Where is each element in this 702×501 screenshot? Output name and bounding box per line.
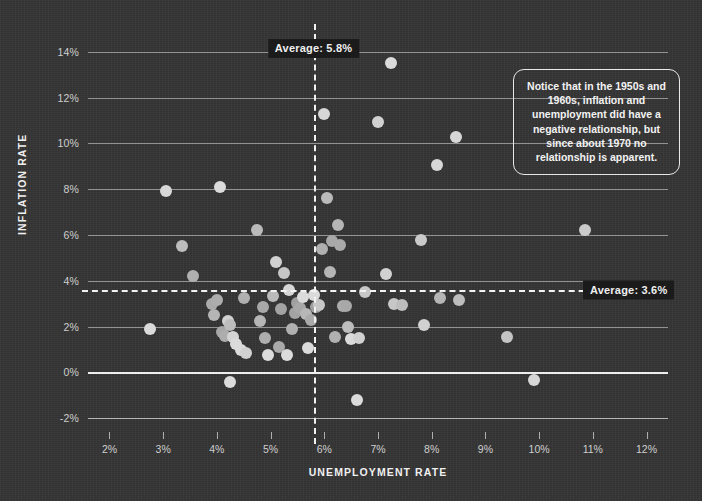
y-tick-label: 8%: [63, 183, 79, 195]
x-tick-label: 5%: [263, 443, 278, 455]
scatter-point: [144, 323, 156, 335]
gridline-y: [88, 372, 668, 374]
scatter-point: [259, 332, 271, 344]
x-tick-label: 6%: [317, 443, 332, 455]
scatter-point: [187, 270, 199, 282]
x-tick-mark: [324, 432, 325, 439]
y-axis-title: INFLATION RATE: [16, 134, 28, 235]
scatter-point: [340, 300, 352, 312]
scatter-point: [342, 321, 354, 333]
x-tick-mark: [378, 432, 379, 439]
scatter-point: [332, 219, 344, 231]
y-tick-label: 14%: [57, 46, 79, 58]
scatter-point: [353, 332, 365, 344]
y-tick-label: 6%: [63, 229, 79, 241]
x-tick-mark: [485, 432, 486, 439]
scatter-point: [351, 394, 363, 406]
gridline-y: [88, 327, 668, 328]
scatter-point: [275, 303, 287, 315]
x-tick-mark: [163, 432, 164, 439]
scatter-point: [302, 342, 314, 354]
y-tick-label: 12%: [57, 92, 79, 104]
scatter-point: [224, 319, 236, 331]
scatter-point: [316, 243, 328, 255]
scatter-point: [501, 331, 513, 343]
x-tick-mark: [217, 432, 218, 439]
scatter-point: [281, 349, 293, 361]
x-tick-label: 2%: [102, 443, 117, 455]
y-tick-label: -2%: [60, 412, 79, 424]
gridline-y: [88, 189, 668, 190]
scatter-point: [321, 192, 333, 204]
x-tick-label: 7%: [370, 443, 385, 455]
gridline-y: [88, 418, 668, 419]
x-axis-title: UNEMPLOYMENT RATE: [88, 466, 668, 478]
scatter-point: [453, 294, 465, 306]
scatter-point: [318, 108, 330, 120]
scatter-point: [450, 131, 462, 143]
scatter-point: [415, 234, 427, 246]
gridline-y: [88, 281, 668, 282]
x-tick-mark: [271, 432, 272, 439]
x-tick-label: 4%: [209, 443, 224, 455]
scatter-point: [380, 268, 392, 280]
scatter-point: [224, 376, 236, 388]
x-tick-mark: [593, 432, 594, 439]
scatter-point: [528, 374, 540, 386]
scatter-point: [324, 266, 336, 278]
scatter-point: [254, 315, 266, 327]
scatter-point: [208, 309, 220, 321]
y-tick-label: 2%: [63, 321, 79, 333]
scatter-point: [431, 159, 443, 171]
scatter-point: [418, 319, 430, 331]
insight-callout-text: Notice that in the 1950s and 1960s, infl…: [527, 80, 666, 163]
x-tick-label: 12%: [636, 443, 657, 455]
scatter-point: [238, 292, 250, 304]
scatter-point: [160, 185, 172, 197]
scatter-point: [434, 292, 446, 304]
scatter-point: [262, 349, 274, 361]
scatter-point: [396, 299, 408, 311]
x-tick-label: 9%: [478, 443, 493, 455]
x-tick-label: 3%: [156, 443, 171, 455]
scatter-point: [176, 240, 188, 252]
y-tick-label: 10%: [57, 137, 79, 149]
scatter-point: [334, 239, 346, 251]
average-unemployment-line: [314, 24, 316, 444]
x-tick-mark: [109, 432, 110, 439]
scatter-point: [372, 116, 384, 128]
scatter-point: [286, 323, 298, 335]
scatter-point: [257, 301, 269, 313]
chart-root: -2%0%2%4%6%8%10%12%14%2%3%4%5%6%7%8%9%10…: [0, 0, 702, 501]
scatter-point: [278, 267, 290, 279]
scatter-point: [385, 57, 397, 69]
scatter-point: [359, 286, 371, 298]
average-inflation-badge: Average: 3.6%: [583, 280, 674, 299]
scatter-point: [214, 181, 226, 193]
scatter-point: [329, 331, 341, 343]
average-unemployment-badge: Average: 5.8%: [268, 39, 359, 58]
scatter-point: [579, 224, 591, 236]
x-tick-label: 8%: [424, 443, 439, 455]
x-tick-mark: [647, 432, 648, 439]
gridline-y: [88, 52, 668, 53]
scatter-point: [240, 347, 252, 359]
x-tick-label: 10%: [529, 443, 550, 455]
x-tick-mark: [432, 432, 433, 439]
y-tick-label: 0%: [63, 366, 79, 378]
scatter-point: [211, 294, 223, 306]
scatter-point: [251, 224, 263, 236]
y-tick-label: 4%: [63, 275, 79, 287]
x-tick-label: 11%: [583, 443, 603, 455]
x-tick-mark: [539, 432, 540, 439]
insight-callout: Notice that in the 1950s and 1960s, infl…: [513, 69, 680, 175]
